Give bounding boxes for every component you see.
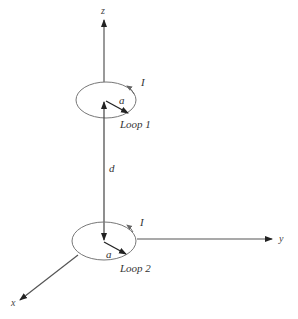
loop-1-name: Loop 1 <box>119 118 151 130</box>
separation-d: d <box>104 102 115 240</box>
loop-2-radius-label: a <box>106 248 112 260</box>
loop-2-current-label: I <box>139 216 145 228</box>
radius-arrow-icon <box>106 101 128 113</box>
coaxial-loops-diagram: z I a Loop 1 d I a Loop 2 y x <box>0 0 298 319</box>
x-axis-label: x <box>10 297 16 308</box>
loop-2-name: Loop 2 <box>119 262 151 274</box>
y-axis-label: y <box>278 233 284 244</box>
loop-2: I a Loop 2 <box>72 216 151 274</box>
x-axis: x <box>10 255 78 308</box>
loop-1: I a Loop 1 <box>76 76 151 130</box>
y-axis: y <box>137 233 284 244</box>
z-axis-label: z <box>100 5 105 16</box>
loop-1-current-label: I <box>140 76 146 88</box>
loop-1-radius-label: a <box>119 94 125 106</box>
separation-label: d <box>109 162 115 174</box>
z-axis: z <box>100 5 105 82</box>
